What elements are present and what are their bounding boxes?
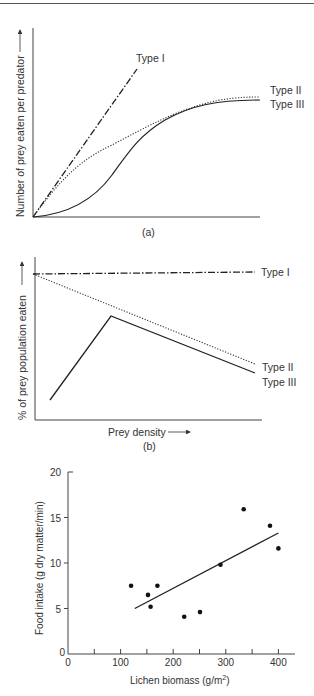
panel-b-xlabel: Prey density (108, 426, 167, 438)
panel-b-label-type2: Type II (262, 361, 294, 373)
panel-c-ylabel: Food intake (g dry matter/min) (34, 501, 45, 635)
data-point (198, 610, 203, 615)
panel-b-type2-line (33, 274, 255, 364)
panel-a: Number of prey eaten per predator Type I… (14, 28, 304, 238)
panel-a-panel-label: (a) (142, 226, 155, 238)
panel-a-type1-line (33, 69, 137, 217)
panel-c-xtick-400: 400 (270, 657, 287, 668)
panel-b-label-type1: Type I (261, 266, 290, 278)
data-point (276, 546, 281, 551)
panel-a-type2-curve (33, 97, 260, 217)
panel-b-type3-line (50, 316, 255, 400)
panel-b-label-type3: Type III (262, 376, 296, 388)
data-point (268, 523, 273, 528)
panel-c-xtick-100: 100 (112, 657, 129, 668)
panel-c-ytick-15: 15 (50, 513, 62, 524)
data-point (148, 604, 153, 609)
panel-b-panel-label: (b) (143, 440, 156, 452)
panel-c: 20 15 10 5 0 0 100 200 300 400 Food inta… (34, 467, 295, 686)
panel-c-x-ticks (94, 649, 278, 654)
panel-a-type3-curve (33, 100, 260, 217)
panel-c-xtick-300: 300 (217, 657, 234, 668)
data-point (146, 593, 151, 598)
data-point (241, 507, 246, 512)
panel-c-xlabel: Lichen biomass (g/m2) (130, 674, 230, 686)
data-point (155, 584, 160, 589)
panel-b-type1-line (33, 272, 255, 274)
panel-a-label-type3: Type III (270, 98, 304, 110)
data-point (182, 614, 187, 619)
panel-a-label-type2: Type II (270, 84, 302, 96)
data-point (129, 584, 134, 589)
panel-c-xtick-0: 0 (65, 657, 71, 668)
panel-b: % of prey population eaten Type I Type I… (16, 257, 296, 452)
panel-c-xtick-200: 200 (165, 657, 182, 668)
panel-c-ytick-5: 5 (55, 604, 61, 615)
panel-c-ytick-20: 20 (50, 467, 62, 478)
panel-a-ylabel: Number of prey eaten per predator (14, 55, 26, 217)
panel-c-regression-line (135, 533, 279, 609)
data-point (218, 563, 223, 568)
panel-c-ytick-10: 10 (50, 558, 62, 569)
panel-b-ylabel: % of prey population eaten (16, 295, 28, 420)
figure: Number of prey eaten per predator Type I… (0, 0, 314, 696)
panel-c-points (129, 507, 281, 619)
panel-a-label-type1: Type I (136, 52, 165, 64)
